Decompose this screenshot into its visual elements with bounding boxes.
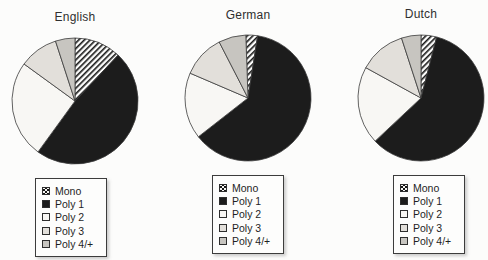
legend-item-poly3: Poly 3 bbox=[219, 221, 277, 234]
legend-item-poly2: Poly 2 bbox=[400, 208, 458, 221]
legend-label-poly2: Poly 2 bbox=[413, 208, 442, 220]
legend-label-poly4: Poly 4/+ bbox=[55, 238, 93, 250]
legend-item-mono: Mono bbox=[219, 181, 277, 194]
poly4-swatch-icon bbox=[42, 240, 50, 248]
legend-label-poly3: Poly 3 bbox=[232, 222, 261, 234]
legend-label-mono: Mono bbox=[413, 182, 439, 194]
legend-item-poly4: Poly 4/+ bbox=[219, 235, 277, 248]
poly1-swatch-icon bbox=[400, 197, 408, 205]
legend-label-poly1: Poly 1 bbox=[55, 198, 84, 210]
legend-label-poly4: Poly 4/+ bbox=[413, 235, 451, 247]
poly2-swatch-icon bbox=[42, 213, 50, 221]
legend-dutch: Mono Poly 1 Poly 2 Poly 3 Poly 4/+ bbox=[393, 175, 465, 254]
legend-item-poly1: Poly 1 bbox=[219, 194, 277, 207]
legend-item-mono: Mono bbox=[400, 181, 458, 194]
pie-dutch bbox=[355, 32, 487, 164]
legend-item-mono: Mono bbox=[42, 184, 100, 197]
legend-item-poly4: Poly 4/+ bbox=[400, 235, 458, 248]
legend-label-mono: Mono bbox=[55, 185, 81, 197]
pie-english bbox=[9, 35, 141, 167]
legend-label-poly2: Poly 2 bbox=[232, 208, 261, 220]
mono-hatch-swatch-icon bbox=[400, 184, 408, 192]
poly2-swatch-icon bbox=[400, 210, 408, 218]
poly1-swatch-icon bbox=[219, 197, 227, 205]
legend-label-poly3: Poly 3 bbox=[55, 225, 84, 237]
legend-german: Mono Poly 1 Poly 2 Poly 3 Poly 4/+ bbox=[212, 175, 284, 254]
legend-item-poly1: Poly 1 bbox=[42, 197, 100, 210]
poly4-swatch-icon bbox=[400, 237, 408, 245]
legend-item-poly3: Poly 3 bbox=[400, 221, 458, 234]
legend-label-poly2: Poly 2 bbox=[55, 211, 84, 223]
legend-item-poly3: Poly 3 bbox=[42, 224, 100, 237]
legend-label-poly4: Poly 4/+ bbox=[232, 235, 270, 247]
legend-english: Mono Poly 1 Poly 2 Poly 3 Poly 4/+ bbox=[35, 178, 107, 257]
mono-hatch-swatch-icon bbox=[42, 187, 50, 195]
poly4-swatch-icon bbox=[219, 237, 227, 245]
legend-item-poly1: Poly 1 bbox=[400, 194, 458, 207]
poly3-swatch-icon bbox=[400, 224, 408, 232]
legend-item-poly2: Poly 2 bbox=[219, 208, 277, 221]
legend-label-poly1: Poly 1 bbox=[232, 195, 261, 207]
legend-label-poly1: Poly 1 bbox=[413, 195, 442, 207]
pie-title-german: German bbox=[182, 8, 314, 22]
poly3-swatch-icon bbox=[219, 224, 227, 232]
poly2-swatch-icon bbox=[219, 210, 227, 218]
poly1-swatch-icon bbox=[42, 200, 50, 208]
poly3-swatch-icon bbox=[42, 227, 50, 235]
figure-three-pie-charts: English Mono Poly 1 Poly 2 Poly 3 Poly 4… bbox=[0, 0, 488, 260]
legend-item-poly4: Poly 4/+ bbox=[42, 238, 100, 251]
pie-title-english: English bbox=[9, 10, 141, 24]
mono-hatch-swatch-icon bbox=[219, 184, 227, 192]
legend-label-mono: Mono bbox=[232, 182, 258, 194]
pie-title-dutch: Dutch bbox=[355, 7, 487, 21]
legend-item-poly2: Poly 2 bbox=[42, 211, 100, 224]
legend-label-poly3: Poly 3 bbox=[413, 222, 442, 234]
pie-german bbox=[182, 32, 314, 164]
